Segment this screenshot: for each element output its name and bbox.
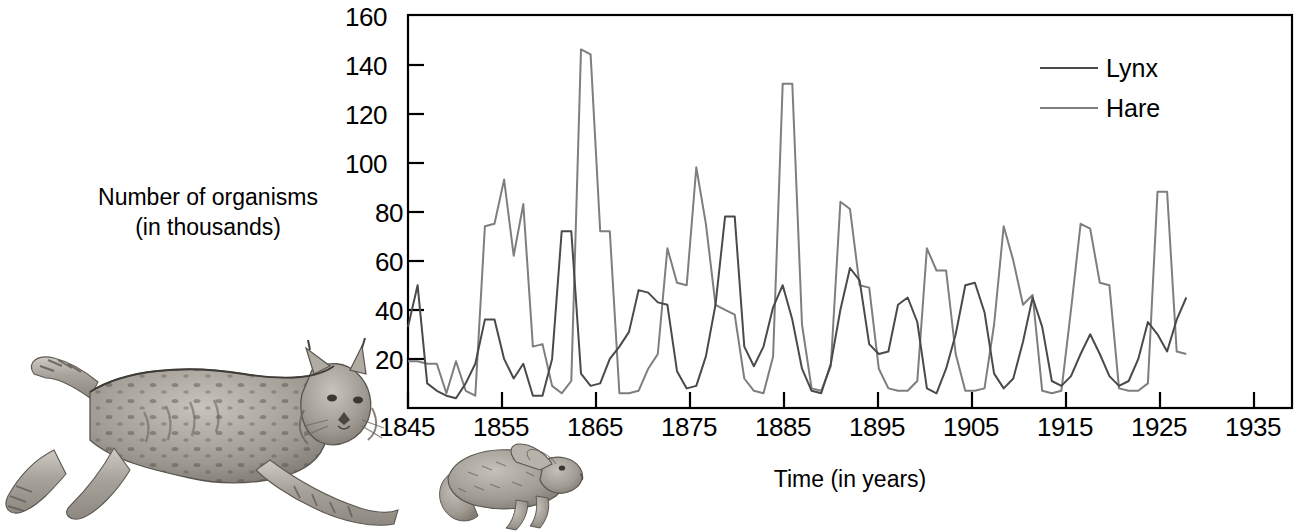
lynx-series-line — [408, 216, 1186, 398]
lynx-drawing — [0, 300, 414, 532]
x-tick-marks — [408, 392, 1254, 408]
hare-drawing — [424, 438, 600, 532]
lynx-hare-population-figure: Number of organisms (in thousands) 20 40… — [0, 0, 1307, 532]
